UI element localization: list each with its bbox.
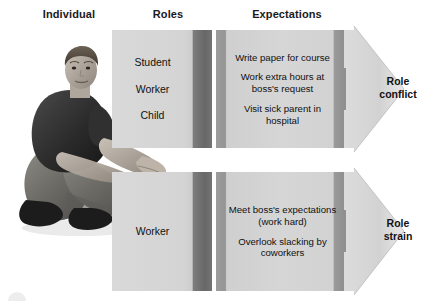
expectation-item-1: Write paper for course xyxy=(235,52,330,64)
outcome-line-1: Role xyxy=(387,217,410,229)
role-label-worker: Worker xyxy=(136,83,170,96)
expectation-item-3: Visit sick parent in hospital xyxy=(227,103,338,126)
expectation-item-4: Meet boss's expectations (work hard) xyxy=(227,204,338,227)
column-header-roles: Roles xyxy=(131,8,205,20)
expectation-item-2: Work extra hours at boss's request xyxy=(227,71,338,94)
roles-box-strain: Worker xyxy=(112,172,212,291)
roles-label-group-strain: Worker xyxy=(112,172,193,291)
role-label-worker-strain: Worker xyxy=(136,225,170,238)
expectations-box-strain: Meet boss's expectations (work hard) Ove… xyxy=(216,172,349,291)
outcome-label-role-conflict: Role conflict xyxy=(367,75,429,101)
flow-row-role-strain: Worker Meet boss's expectations (work ha… xyxy=(112,172,429,291)
outcome-line-2: strain xyxy=(384,230,413,242)
column-header-expectations: Expectations xyxy=(232,8,342,20)
role-label-student: Student xyxy=(134,56,170,69)
column-header-individual: Individual xyxy=(26,8,112,20)
expectations-box-conflict: Write paper for course Work extra hours … xyxy=(216,30,349,148)
expectation-item-5: Overlook slacking by coworkers xyxy=(227,236,338,259)
role-label-child: Child xyxy=(141,109,165,122)
roles-box-conflict: Student Worker Child xyxy=(112,30,212,148)
expectations-text-group-conflict: Write paper for course Work extra hours … xyxy=(227,30,338,148)
watermark-icon xyxy=(6,283,28,301)
outcome-line-2: conflict xyxy=(379,88,416,100)
flow-row-role-conflict: Student Worker Child Write paper for cou… xyxy=(112,30,429,148)
outcome-label-role-strain: Role strain xyxy=(367,217,429,243)
diagram-canvas: Individual Roles Expectations xyxy=(0,0,429,301)
outcome-line-1: Role xyxy=(387,75,410,87)
roles-label-group-conflict: Student Worker Child xyxy=(112,30,193,148)
expectations-text-group-strain: Meet boss's expectations (work hard) Ove… xyxy=(227,172,338,291)
